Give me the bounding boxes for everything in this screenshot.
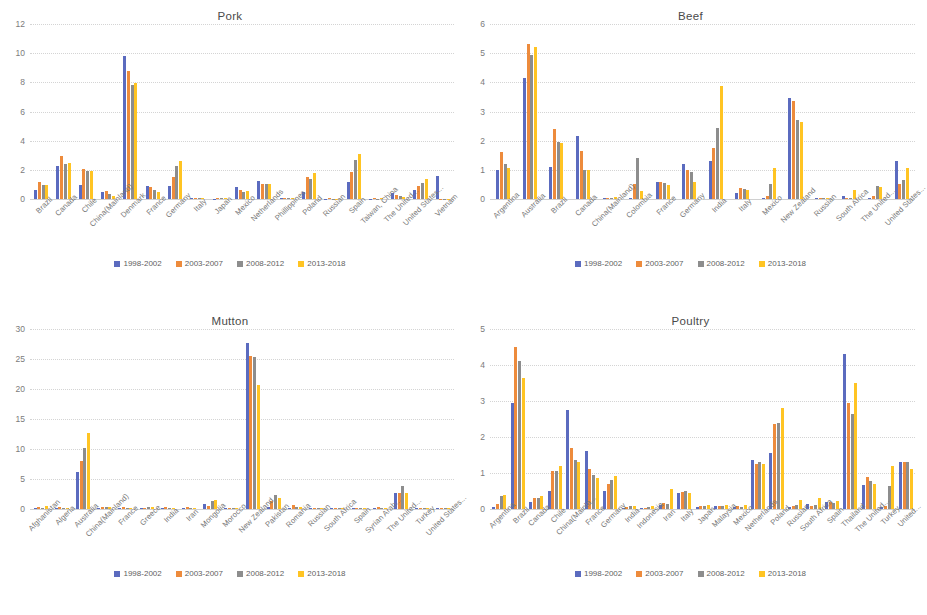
bar [257,181,260,199]
bar-group [623,24,650,199]
bar [716,128,719,199]
bar-group [390,329,411,509]
x-axis-label-text: India [710,196,728,214]
legend-item[interactable]: 1998-2002 [114,569,161,578]
legend-item[interactable]: 2008-2012 [698,569,745,578]
x-axis-label-text: Italy [737,197,754,214]
bar [557,142,560,199]
x-axis-label: Poland [298,199,320,257]
bar-group [712,329,730,509]
y-axis-tick: 1 [480,468,485,478]
bar [500,152,503,199]
y-axis-tick: 8 [20,77,25,87]
bar [788,98,791,199]
bar [529,502,532,509]
legend-label: 1998-2002 [123,569,161,578]
bar [555,471,558,509]
legend-item[interactable]: 2003-2007 [176,569,223,578]
x-axis-label: Iran [178,509,199,567]
x-axis-label: China(Mainla... [564,509,582,567]
x-axis-label: The United... [860,509,878,567]
bar-group [231,24,253,199]
legend-swatch-icon [114,571,120,577]
legend-item[interactable]: 1998-2002 [575,259,622,268]
legend-item[interactable]: 2008-2012 [237,569,284,578]
bar-group [786,329,804,509]
legend-item[interactable]: 2013-2018 [759,569,806,578]
x-axis-label: Italy [729,199,756,257]
bar [762,464,765,509]
bar-group [860,329,878,509]
bar [82,169,85,199]
x-axis-label: South Africa [835,199,862,257]
legend-item[interactable]: 2003-2007 [636,569,683,578]
x-axis-label: Malaysia [712,509,730,567]
legend-item[interactable]: 2013-2018 [298,569,345,578]
legend-label: 2008-2012 [246,259,284,268]
bar [851,414,854,509]
x-axis-label: Argentina [490,509,508,567]
bar [534,47,537,199]
legend-item[interactable]: 2008-2012 [698,259,745,268]
x-axis-label: United... [897,509,915,567]
y-axis-tick: 15 [16,414,25,424]
legend-item[interactable]: 1998-2002 [575,569,622,578]
bar [712,148,715,199]
legend-item[interactable]: 2003-2007 [636,259,683,268]
bar-group [30,24,52,199]
bar [906,462,909,509]
x-axis-label-text: India [162,506,180,524]
bar [709,161,712,199]
y-axis-tick: 0 [20,504,25,514]
bar [42,185,45,199]
legend-item[interactable]: 1998-2002 [114,259,161,268]
legend-swatch-icon [759,571,765,577]
x-axis-label: Russian [320,199,342,257]
bar-group [676,24,703,199]
chart-title-poultry: Poultry [460,305,921,329]
x-axis-label: France [582,509,600,567]
bar-group [142,24,164,199]
legend-swatch-icon [698,571,704,577]
legend-swatch-icon [636,261,642,267]
y-axis-tick: 10 [16,444,25,454]
bar-group [649,24,676,199]
legend-label: 1998-2002 [584,259,622,268]
bar [570,448,573,509]
y-axis-tick: 5 [20,474,25,484]
bar [910,469,913,509]
bar-group [749,329,767,509]
legend-item[interactable]: 2013-2018 [298,259,345,268]
x-axis-label: New Zealand [782,199,809,257]
bar [504,164,507,199]
y-axis-tick: 3 [480,396,485,406]
bar-group [119,24,141,199]
legend-item[interactable]: 2013-2018 [759,259,806,268]
bar-group [675,329,693,509]
bar-group [51,329,72,509]
x-axis-label: Chile [545,509,563,567]
y-axis-tick: 2 [480,136,485,146]
x-axis-label: Poland [767,509,785,567]
legend-poultry: 1998-20022003-20072008-20122013-2018 [460,569,921,578]
bar [511,403,514,509]
plot-area-poultry: 012345 [490,329,915,509]
x-axis-labels-poultry: ArgentinaBrazilCanadaChileChina(Mainla..… [490,509,915,567]
bar [123,56,126,199]
x-axis-label: Russian [809,199,836,257]
bar-group [275,24,297,199]
bar [758,462,761,509]
legend-label: 2003-2007 [645,259,683,268]
bar [134,83,137,199]
x-axis-label: Spain [348,509,369,567]
bar-group [412,329,433,509]
legend-item[interactable]: 2003-2007 [176,259,223,268]
x-axis-label: Syrian Arab... [369,509,390,567]
legend-swatch-icon [237,261,243,267]
legend-item[interactable]: 2008-2012 [237,259,284,268]
x-axis-label: Russian [306,509,327,567]
bar [560,143,563,199]
bar [522,378,525,509]
y-axis-tick: 4 [480,77,485,87]
chart-title-pork: Pork [0,0,460,24]
